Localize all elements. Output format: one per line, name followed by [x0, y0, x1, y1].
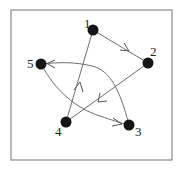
edge-3-to-5 — [41, 60, 129, 125]
arrowhead-icon — [47, 60, 55, 68]
directed-graph-diagram: 1 2 3 4 5 — [0, 0, 180, 171]
node-3: 3 — [124, 120, 142, 140]
node-2: 2 — [143, 44, 157, 69]
node-label: 4 — [55, 124, 62, 139]
arrowhead-icon — [98, 93, 107, 102]
node-label: 3 — [135, 124, 142, 139]
node-label: 1 — [84, 16, 91, 31]
node-4: 4 — [55, 117, 72, 140]
node-1: 1 — [84, 16, 99, 36]
node-label: 5 — [27, 56, 34, 71]
node-5: 5 — [27, 56, 47, 71]
edge-2-to-4 — [66, 63, 148, 122]
edge-5-to-3 — [41, 64, 129, 126]
edge-4-to-1 — [66, 30, 93, 122]
edge-1-to-2 — [93, 30, 148, 63]
node-label: 2 — [150, 44, 157, 59]
